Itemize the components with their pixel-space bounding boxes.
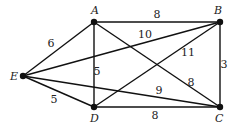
weighted-graph: 865810113958 ABCDE <box>0 0 241 127</box>
edge-weight-b-c: 3 <box>221 58 228 71</box>
vertex-e <box>20 73 26 79</box>
edge-weight-e-c: 9 <box>156 84 163 97</box>
vertex-label-a: A <box>90 4 99 17</box>
vertex-label-e: E <box>9 70 18 83</box>
edge-weight-a-d: 5 <box>94 65 101 78</box>
vertex-c <box>217 104 223 110</box>
vertex-b <box>217 19 223 25</box>
edge-weight-a-c: 8 <box>188 76 195 89</box>
edge-e-d <box>23 76 94 107</box>
vertex-label-b: B <box>213 4 222 17</box>
vertex-a <box>91 19 97 25</box>
vertex-label-c: C <box>215 112 224 125</box>
edge-a-e <box>23 22 94 76</box>
edge-weight-a-e: 6 <box>48 37 55 50</box>
edge-weight-e-d: 5 <box>51 93 58 106</box>
vertex-label-d: D <box>89 112 99 125</box>
edge-weights: 865810113958 <box>48 8 228 122</box>
edge-weight-d-b: 11 <box>181 46 195 59</box>
edge-weight-e-b: 10 <box>138 28 152 41</box>
vertex-d <box>91 104 97 110</box>
edge-weight-a-b: 8 <box>154 8 161 21</box>
edge-weight-d-c: 8 <box>152 109 159 122</box>
